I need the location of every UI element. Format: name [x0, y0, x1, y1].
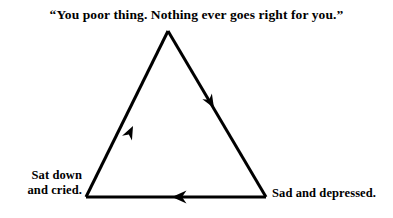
node-label-bottom-left: Sat down and cried. — [0, 168, 82, 197]
arrowhead-left-edge — [122, 124, 138, 141]
cycle-diagram-figure: “You poor thing. Nothing ever goes right… — [0, 0, 393, 218]
edge-line-top-to-bottom-right — [168, 31, 266, 197]
node-label-bottom-right: Sad and depressed. — [272, 186, 376, 201]
node-label-bottom-left-line2: and cried. — [0, 183, 82, 198]
node-label-bottom-left-line1: Sat down — [0, 168, 82, 183]
edge-line-bottom-left-to-top — [86, 31, 168, 197]
